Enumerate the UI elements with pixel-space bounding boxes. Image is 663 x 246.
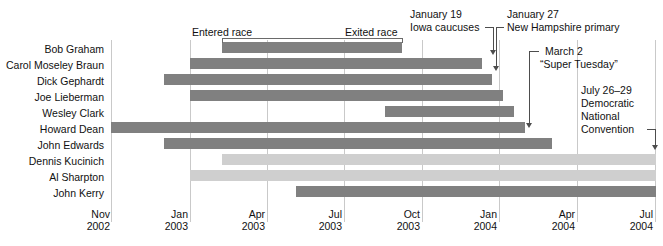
entered-race-leader-line: [222, 38, 223, 43]
super-tuesday-arrow-icon: [526, 123, 532, 128]
tick-label-jan-2003: Jan 2003: [156, 208, 188, 232]
annotation-entered-race: Entered race: [192, 26, 252, 38]
annotation-iowa-label: Iowa caucuses: [410, 21, 479, 33]
new-hampshire-arrow-icon: [493, 66, 499, 71]
tick-label-jul-2003: Jul 2003: [310, 208, 342, 232]
row-label-joe-lieberman: Joe Lieberman: [35, 91, 104, 103]
annotation-super-tuesday-label: “Super Tuesday”: [540, 58, 618, 70]
bar-john-edwards: [164, 138, 552, 149]
row-label-howard-dean: Howard Dean: [40, 123, 104, 135]
bar-dick-gephardt: [164, 74, 492, 85]
annotation-convention-line4: Convention: [581, 123, 634, 135]
row-label-al-sharpton: Al Sharpton: [49, 171, 104, 183]
super-tuesday-leader-line: [529, 51, 530, 124]
row-label-john-edwards: John Edwards: [37, 139, 104, 151]
bar-howard-dean: [111, 122, 525, 133]
annotation-convention-line2: Democratic: [581, 97, 634, 109]
candidate-timeline-chart: Bob Graham Carol Moseley Braun Dick Geph…: [0, 0, 663, 246]
bar-wesley-clark: [385, 106, 514, 117]
annotation-new-hampshire-label: New Hampshire primary: [507, 21, 620, 33]
tick-label-jan-2004: Jan 2004: [465, 208, 497, 232]
bar-joe-lieberman: [190, 90, 503, 101]
row-label-bob-graham: Bob Graham: [44, 43, 104, 55]
annotation-convention-date: July 26–29: [581, 84, 632, 96]
row-label-dennis-kucinich: Dennis Kucinich: [29, 155, 104, 167]
bar-carol-moseley-braun: [190, 58, 482, 69]
tick-label-nov-2002: Nov 2002: [78, 208, 110, 232]
annotation-super-tuesday-date: March 2: [545, 45, 583, 57]
category-axis-labels: Bob Graham Carol Moseley Braun Dick Geph…: [0, 40, 104, 208]
annotation-exited-race: Exited race: [345, 26, 398, 38]
bar-dennis-kucinich: [222, 154, 656, 165]
new-hampshire-leader-line: [496, 27, 497, 67]
annotation-convention-line3: National: [581, 110, 620, 122]
row-label-dick-gephardt: Dick Gephardt: [37, 75, 104, 87]
entered-exited-bracket: [222, 38, 402, 39]
iowa-leader-elbow: [485, 27, 493, 28]
bar-john-kerry: [296, 186, 656, 197]
annotation-iowa-date: January 19: [410, 8, 462, 20]
tick-label-jul-2004: Jul 2004: [621, 208, 653, 232]
x-axis-tick-labels: Nov 2002 Jan 2003 Apr 2003 Jul 2003 Oct …: [0, 208, 663, 246]
exited-race-leader-line: [402, 38, 403, 43]
bar-bob-graham: [222, 42, 402, 53]
row-label-carol-moseley-braun: Carol Moseley Braun: [6, 59, 104, 71]
convention-arrow-icon: [652, 145, 658, 150]
convention-leader-line: [655, 129, 656, 146]
tick-label-oct-2003: Oct 2003: [388, 208, 420, 232]
tick-label-apr-2003: Apr 2003: [233, 208, 265, 232]
bar-al-sharpton: [190, 170, 656, 181]
tick-label-apr-2004: Apr 2004: [543, 208, 575, 232]
super-tuesday-leader-elbow: [529, 51, 539, 52]
row-label-wesley-clark: Wesley Clark: [42, 107, 104, 119]
row-label-john-kerry: John Kerry: [53, 187, 104, 199]
annotation-new-hampshire-date: January 27: [507, 8, 559, 20]
iowa-leader-line: [493, 27, 494, 51]
new-hampshire-leader-elbow: [496, 27, 504, 28]
